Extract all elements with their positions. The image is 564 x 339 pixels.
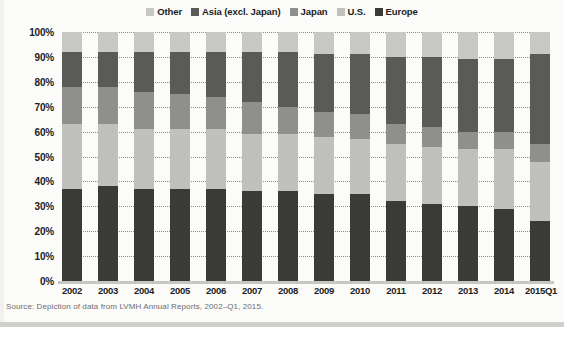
y-axis-tick-80: 80% <box>35 76 54 87</box>
bar-segment <box>530 144 550 161</box>
bar-segment <box>350 32 370 54</box>
bar-segment <box>314 112 334 137</box>
bar-segment <box>494 149 514 209</box>
legend-item-us: U.S. <box>337 7 366 17</box>
bar-segment <box>206 32 226 52</box>
x-axis-tick-2013: 2013 <box>458 285 478 301</box>
plot-area <box>62 32 550 281</box>
bar-segment <box>350 54 370 114</box>
bar-segment <box>206 97 226 129</box>
x-axis-tick-2003: 2003 <box>98 285 118 301</box>
y-axis-tick-60: 60% <box>35 126 54 137</box>
legend-swatch-japan <box>290 8 298 16</box>
x-axis-tick-2010: 2010 <box>350 285 370 301</box>
bar-segment <box>278 107 298 134</box>
bar-column-2012 <box>422 32 442 281</box>
legend-swatch-europe <box>375 8 383 16</box>
bar-segment <box>494 32 514 59</box>
y-axis-tick-0: 0% <box>40 276 54 287</box>
bar-segment <box>494 59 514 131</box>
bar-segment <box>314 194 334 281</box>
bar-segment <box>530 32 550 54</box>
bar-segment <box>530 221 550 281</box>
bar-segment <box>206 129 226 189</box>
bar-segment <box>350 114 370 139</box>
source-note: Source: Depiction of data from LVMH Annu… <box>6 302 263 311</box>
bar-segment <box>62 32 82 52</box>
bar-segment <box>206 189 226 281</box>
bar-column-2011 <box>386 32 406 281</box>
bar-segment <box>242 191 262 281</box>
y-axis-tick-100: 100% <box>29 27 54 38</box>
bar-segment <box>62 189 82 281</box>
chart-legend: OtherAsia (excl. Japan)JapanU.S.Europe <box>0 5 564 19</box>
x-axis-tick-2014: 2014 <box>494 285 514 301</box>
bar-segment <box>350 139 370 194</box>
bar-segment <box>314 54 334 111</box>
bar-segment <box>134 129 154 189</box>
bar-segment <box>458 59 478 131</box>
legend-label-other: Other <box>157 7 182 17</box>
legend-label-japan: Japan <box>301 7 328 17</box>
bar-column-2014 <box>494 32 514 281</box>
bar-segment <box>278 32 298 52</box>
x-axis-tick-2002: 2002 <box>62 285 82 301</box>
bar-segment <box>314 32 334 54</box>
bar-segment <box>170 52 190 94</box>
bar-segment <box>422 32 442 57</box>
bar-segment <box>98 186 118 281</box>
bar-segment <box>62 124 82 189</box>
bar-segment <box>242 102 262 134</box>
legend-swatch-asia <box>191 8 199 16</box>
bar-segment <box>242 134 262 191</box>
x-axis-tick-2009: 2009 <box>314 285 334 301</box>
bar-segment <box>350 194 370 281</box>
y-axis-tick-40: 40% <box>35 176 54 187</box>
bar-segment <box>62 52 82 87</box>
bar-column-2003 <box>98 32 118 281</box>
bar-segment <box>422 147 442 204</box>
x-axis-tick-2005: 2005 <box>170 285 190 301</box>
y-axis-tick-20: 20% <box>35 226 54 237</box>
bar-segment <box>422 204 442 281</box>
bar-segment <box>242 32 262 52</box>
bar-segment <box>530 54 550 144</box>
x-axis-tick-2004: 2004 <box>134 285 154 301</box>
bar-column-2007 <box>242 32 262 281</box>
bar-series-container <box>62 32 550 281</box>
bar-segment <box>458 32 478 59</box>
bar-segment <box>386 32 406 57</box>
bar-segment <box>98 87 118 124</box>
bar-column-2005 <box>170 32 190 281</box>
legend-item-europe: Europe <box>375 7 418 17</box>
bar-segment <box>278 52 298 107</box>
bar-segment <box>134 189 154 281</box>
bar-segment <box>170 32 190 52</box>
legend-item-asia: Asia (excl. Japan) <box>191 7 280 17</box>
bar-segment <box>206 52 226 97</box>
bar-segment <box>494 132 514 149</box>
bar-segment <box>134 52 154 92</box>
bar-segment <box>98 124 118 186</box>
legend-item-japan: Japan <box>290 7 328 17</box>
legend-swatch-other <box>146 8 154 16</box>
bar-column-2010 <box>350 32 370 281</box>
bar-segment <box>278 134 298 191</box>
y-axis-tick-90: 90% <box>35 51 54 62</box>
bar-segment <box>98 52 118 87</box>
bar-segment <box>386 144 406 201</box>
bar-segment <box>530 162 550 222</box>
bar-segment <box>422 127 442 147</box>
bar-segment <box>278 191 298 281</box>
x-axis-tick-2008: 2008 <box>278 285 298 301</box>
y-axis-tick-30: 30% <box>35 201 54 212</box>
bar-segment <box>458 149 478 206</box>
y-axis: 0%10%20%30%40%50%60%70%80%90%100% <box>0 32 58 281</box>
bar-segment <box>494 209 514 281</box>
bar-segment <box>314 137 334 194</box>
bar-segment <box>422 57 442 127</box>
bar-segment <box>386 57 406 124</box>
x-axis-tick-2007: 2007 <box>242 285 262 301</box>
legend-item-other: Other <box>146 7 182 17</box>
bar-segment <box>134 92 154 129</box>
